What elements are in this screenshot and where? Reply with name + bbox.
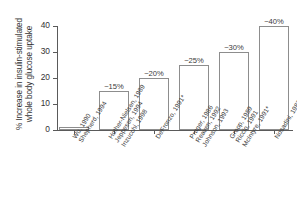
y-tick-label-20: 20: [41, 72, 50, 82]
bar-chart: % Increase in insulin-stimulated whole b…: [0, 0, 297, 208]
plot-area: 0 10 20 30 40 ~15% ~20% ~25% ~30%: [57, 26, 293, 130]
bar-value-5: ~40%: [264, 17, 284, 26]
y-tick-label-0: 0: [45, 124, 50, 134]
bar-value-2: ~20%: [144, 69, 164, 78]
y-tick-label-40: 40: [41, 20, 50, 30]
y-axis-title-line-2: whole body glucose uptake: [25, 18, 36, 130]
bar-value-4: ~30%: [224, 43, 244, 52]
bar-value-3: ~25%: [184, 56, 204, 65]
bar-value-1: ~15%: [104, 82, 124, 91]
y-tick-20: 20: [53, 78, 57, 79]
y-tick-10: 10: [53, 104, 57, 105]
y-tick-0: 0: [53, 130, 57, 131]
y-axis-title-line-1: % Increase in insulin-stimulated: [15, 18, 26, 130]
y-axis-line: [57, 26, 58, 131]
y-axis-title: % Increase in insulin-stimulated whole b…: [9, 4, 41, 144]
y-tick-label-30: 30: [41, 46, 50, 56]
y-tick-label-10: 10: [41, 98, 50, 108]
y-tick-40: 40: [53, 26, 57, 27]
y-tick-30: 30: [53, 52, 57, 53]
